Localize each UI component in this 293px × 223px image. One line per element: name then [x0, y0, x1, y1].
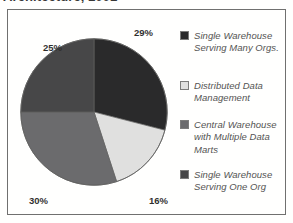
- legend-item-single-warehouse-one-org[interactable]: Single Warehouse Serving One Org: [180, 169, 282, 194]
- legend-swatch-1: [180, 81, 189, 90]
- legend-item-label: Distributed Data Management: [194, 80, 282, 105]
- pie-value-label-0: 29%: [134, 28, 153, 38]
- chart-legend: Single Warehouse Serving Many Orgs. Dist…: [180, 24, 285, 204]
- legend-swatch-0: [180, 31, 189, 40]
- legend-item-single-warehouse-many-orgs[interactable]: Single Warehouse Serving Many Orgs.: [180, 30, 282, 55]
- pie-value-label-3: 25%: [43, 43, 62, 53]
- figure-box: 29% 16% 30% 25% Single Warehouse Serving…: [7, 9, 286, 215]
- pie-slices: [21, 39, 167, 185]
- pie-value-label-2: 30%: [29, 196, 48, 206]
- legend-swatch-3: [180, 170, 189, 179]
- legend-item-label: Single Warehouse Serving Many Orgs.: [194, 30, 282, 55]
- figure-title: Architecture, 2002: [3, 0, 203, 5]
- legend-item-label: Single Warehouse Serving One Org: [194, 169, 282, 194]
- legend-swatch-2: [180, 120, 189, 129]
- legend-item-distributed-data-management[interactable]: Distributed Data Management: [180, 80, 282, 105]
- pie-value-label-1: 16%: [149, 196, 168, 206]
- legend-item-label: Central Warehouse with Multiple Data Mar…: [194, 119, 282, 156]
- legend-item-central-warehouse-data-marts[interactable]: Central Warehouse with Multiple Data Mar…: [180, 119, 282, 156]
- pie-chart: 29% 16% 30% 25%: [8, 10, 180, 214]
